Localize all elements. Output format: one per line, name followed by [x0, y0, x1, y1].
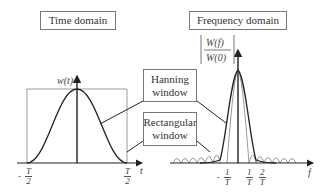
tick-2-over-T: 2 T [259, 168, 266, 187]
tick-sign: - [217, 173, 220, 182]
time-domain-title-box: Time domain [40, 11, 116, 30]
tick-minus-1-over-T: - 1 T [224, 168, 231, 187]
tick-denominator: T [246, 178, 253, 187]
rect-leader-left [127, 141, 143, 152]
tick-sign: - [18, 172, 21, 181]
hanning-window-callout: Hanning window [143, 69, 197, 102]
time-domain-plot [17, 76, 142, 163]
tick-T-over-2: T 2 [124, 167, 131, 186]
rectangular-window-callout: Rectangular window [143, 112, 197, 146]
rectangular-callout-line1: Rectangular [143, 116, 196, 129]
tick-denominator: 2 [124, 177, 131, 186]
hanning-callout-line2: window [152, 86, 187, 99]
tick-1-over-T: 1 T [246, 168, 253, 187]
hanning-callout-line1: Hanning [151, 73, 189, 86]
tick-minus-T-over-2: - T 2 [25, 167, 32, 186]
tick-denominator: T [259, 178, 266, 187]
tick-denominator: 2 [25, 177, 32, 186]
rectangular-callout-line2: window [152, 129, 187, 142]
hanning-leader-right [197, 101, 226, 123]
tick-denominator: T [224, 178, 231, 187]
rect-leader-right [197, 141, 210, 152]
frequency-domain-title-box: Frequency domain [189, 11, 287, 30]
frequency-domain-title: Frequency domain [197, 14, 279, 27]
magnitude-label-numerator: W(f) [206, 38, 224, 48]
w-of-t-label: w(t) [57, 76, 73, 86]
time-domain-title: Time domain [49, 14, 108, 27]
f-axis-label: f [308, 168, 311, 178]
magnitude-label-denominator: W(0) [206, 53, 226, 63]
hanning-leader-left [100, 101, 143, 124]
t-axis-label: t [140, 166, 143, 176]
